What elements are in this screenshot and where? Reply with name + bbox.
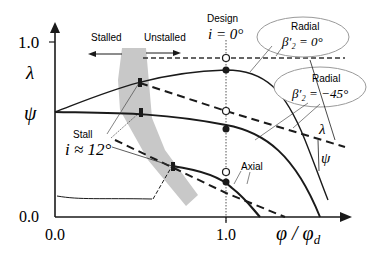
stall-marker-1 (138, 78, 142, 87)
stall-band (118, 48, 198, 206)
stall-marker-2 (139, 108, 143, 117)
psi-curve-label: ψ (321, 150, 331, 166)
radial45-leader-2 (293, 104, 320, 128)
lambda-axial-curve (115, 140, 285, 217)
design-point-open-3 (223, 169, 230, 176)
radial45-title: Radial (312, 73, 340, 84)
lambda-curve-label: λ (318, 121, 326, 137)
radial0-title: Radial (291, 21, 319, 32)
design-point-open-2 (223, 108, 230, 115)
stall-marker-3 (171, 162, 175, 171)
axial-leader-1 (234, 171, 241, 184)
x-axis-label: φ / φd (276, 222, 321, 247)
stall-label: Stall (73, 129, 92, 140)
performance-diagram: 1.0 λ ψ 0.0 0.0 1.0 φ / φd Stalled Unsta… (0, 0, 389, 260)
design-label: Design (207, 13, 238, 24)
stalled-label: Stalled (91, 32, 122, 43)
stalled-axial-curve (57, 196, 152, 199)
unstalled-label: Unstalled (144, 32, 186, 43)
y-tick-label-lambda: λ (25, 62, 34, 83)
design-point-filled-2 (223, 126, 230, 133)
radial0-value: β′₂ = 0° (281, 34, 323, 49)
y-tick-label-psi: ψ (24, 102, 37, 125)
axial-leader-2 (247, 172, 250, 184)
design-point-filled-3 (223, 179, 230, 186)
radial0-leader-1 (250, 46, 272, 72)
radial45-value: β′₂ = −45° (291, 86, 348, 101)
y-tick-label-0: 0.0 (19, 208, 39, 225)
design-incidence-label: i = 0° (208, 26, 243, 42)
right-arrow-icon (173, 50, 181, 56)
left-arrow-icon (88, 51, 96, 57)
design-point-filled-1 (223, 67, 230, 74)
x-axis-arrow-icon (340, 212, 352, 222)
stall-incidence-label: i ≈ 12° (65, 140, 112, 159)
axial-label: Axial (241, 161, 263, 172)
y-tick-label-1: 1.0 (18, 33, 39, 52)
design-point-open-1 (223, 55, 230, 62)
y-axis-arrow-icon (50, 22, 60, 33)
psi-leader (318, 140, 319, 171)
x-tick-label-1: 1.0 (216, 226, 236, 243)
x-tick-label-0: 0.0 (45, 226, 65, 243)
